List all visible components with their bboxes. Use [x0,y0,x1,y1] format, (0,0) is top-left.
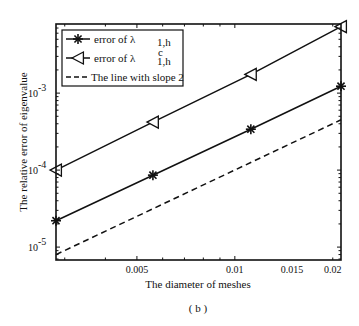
triangle-marker [245,68,256,80]
figure-caption: ( b ) [189,302,208,315]
x-tick-label: 0.01 [226,264,244,275]
y-tick-exponent: -4 [38,159,46,170]
y-axis-title: The relative error of eigenvalue [17,72,29,211]
y-tick-label: 10 [28,242,38,253]
series-0 [51,81,346,226]
legend: error of λ1,herror of λ1,hcThe line with… [62,30,184,86]
y-tick-label: 10 [28,88,38,99]
series-2 [56,120,341,255]
legend-label: The line with slope 2 [91,71,184,83]
y-tick-exponent: -5 [38,236,46,247]
x-axis-title: The diameter of meshes [145,278,250,290]
legend-label: error of λ [94,52,136,64]
chart-figure: 0.0050.010.0150.0210-310-410-5 The diame… [0,0,359,326]
triangle-marker [147,116,158,128]
x-tick-label: 0.02 [324,264,342,275]
x-tick-label: 0.015 [281,264,304,275]
series-line [56,120,341,255]
y-tick-label: 10 [28,165,38,176]
x-tick-label: 0.005 [126,264,149,275]
legend-label-superscript: c [158,46,163,58]
series-line [56,86,341,221]
y-tick-exponent: -3 [38,82,46,93]
legend-label: error of λ [94,33,136,45]
